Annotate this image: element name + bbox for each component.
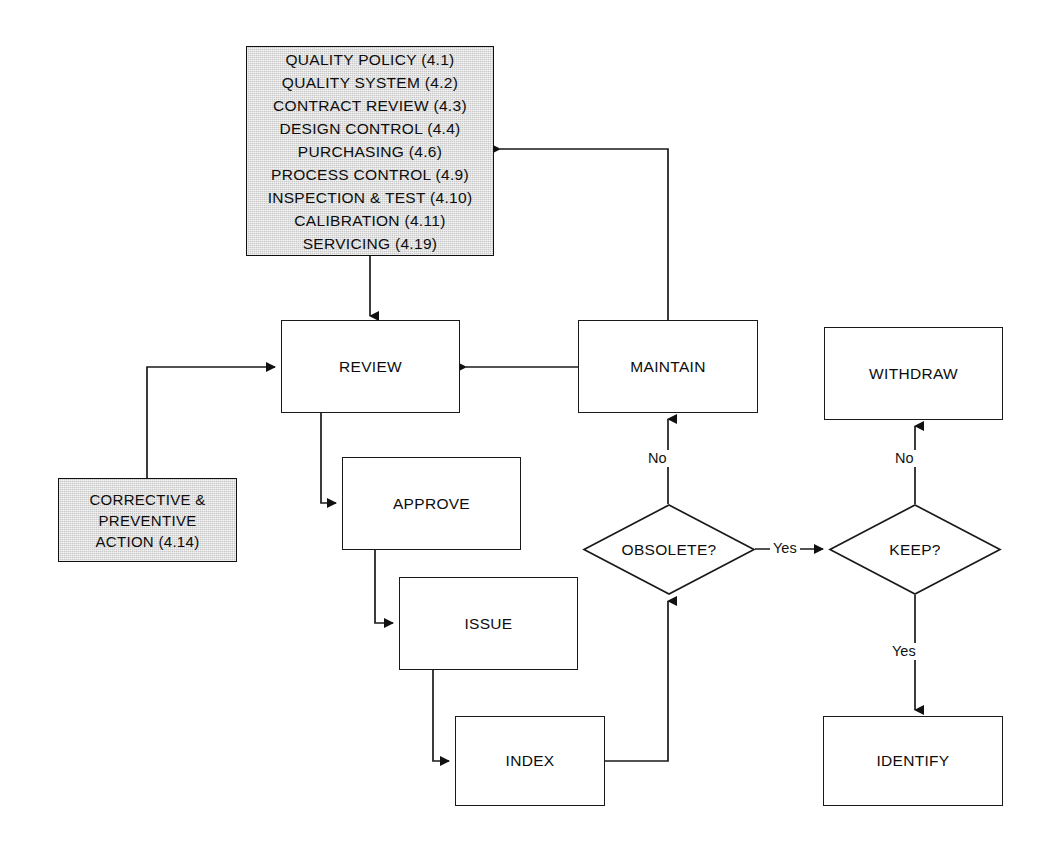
node-index-label: INDEX [506, 752, 555, 770]
node-keep-decision[interactable]: KEEP? [829, 504, 1001, 595]
node-index[interactable]: INDEX [455, 716, 605, 806]
edge-maintain-to-standards [500, 149, 668, 320]
edge-issue-to-index [433, 670, 449, 761]
node-standards-clauses-label: QUALITY POLICY (4.1) QUALITY SYSTEM (4.2… [268, 48, 473, 255]
node-corrective-preventive-action[interactable]: CORRECTIVE & PREVENTIVE ACTION (4.14) [58, 478, 237, 562]
node-review[interactable]: REVIEW [281, 320, 460, 413]
node-issue[interactable]: ISSUE [399, 577, 578, 670]
node-standards-clauses[interactable]: QUALITY POLICY (4.1) QUALITY SYSTEM (4.2… [246, 46, 494, 256]
flowchart-canvas: QUALITY POLICY (4.1) QUALITY SYSTEM (4.2… [0, 0, 1058, 856]
edge-corrective-to-review [147, 367, 275, 478]
node-review-label: REVIEW [339, 358, 402, 376]
node-approve-label: APPROVE [393, 495, 470, 513]
edge-label-obsolete-no: No [645, 450, 670, 467]
node-maintain[interactable]: MAINTAIN [578, 320, 758, 413]
edge-label-obsolete-yes: Yes [770, 540, 800, 557]
keep-diamond-shape [829, 504, 1001, 595]
obsolete-diamond-shape [583, 504, 755, 595]
node-withdraw[interactable]: WITHDRAW [824, 327, 1003, 420]
node-withdraw-label: WITHDRAW [869, 365, 958, 383]
node-identify[interactable]: IDENTIFY [823, 716, 1003, 806]
node-obsolete-decision[interactable]: OBSOLETE? [583, 504, 755, 595]
edge-index-to-obsolete [605, 601, 668, 761]
edge-review-to-approve [321, 413, 336, 503]
node-identify-label: IDENTIFY [876, 752, 949, 770]
edge-approve-to-issue [375, 550, 393, 623]
node-issue-label: ISSUE [464, 615, 512, 633]
edge-label-keep-no: No [892, 450, 917, 467]
node-corrective-preventive-action-label: CORRECTIVE & PREVENTIVE ACTION (4.14) [89, 489, 205, 552]
node-approve[interactable]: APPROVE [342, 457, 521, 550]
node-maintain-label: MAINTAIN [630, 358, 705, 376]
edge-label-keep-yes: Yes [889, 643, 919, 660]
